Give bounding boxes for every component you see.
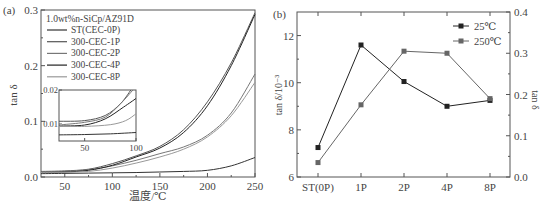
legend-item-label: 300-CEC-2P <box>71 48 120 58</box>
legend-item-label: ST(CEC-0P) <box>71 25 120 36</box>
data-marker <box>359 43 364 48</box>
data-marker <box>316 160 321 165</box>
panel-a-label: (a) <box>3 4 16 17</box>
legend-item-label: 300-CEC-4P <box>71 60 120 70</box>
x-tick-label: 4P <box>441 181 453 193</box>
data-marker <box>402 79 407 84</box>
legend-b: 25℃250℃ <box>453 21 502 47</box>
x-tick-label: 1P <box>355 181 367 193</box>
legend-item-label: 300-CEC-1P <box>71 37 120 47</box>
y-tick-label-right: 0.1 <box>514 130 528 142</box>
y-tick-label-right: 0.2 <box>514 89 528 101</box>
y-tick-label: 0.3 <box>24 4 38 16</box>
x-axis-a-label: 温度/℃ <box>129 189 166 202</box>
legend-item-label: 250℃ <box>474 36 502 47</box>
svg-text:0.02: 0.02 <box>43 85 58 95</box>
inset-a: 0.010.0250100 <box>43 85 143 153</box>
legend-item-label: 300-CEC-8P <box>71 72 120 82</box>
chart-b: (b) 6810120.00.10.20.30.4ST(0P)1P2P4P8P … <box>273 6 541 194</box>
data-marker <box>488 96 493 101</box>
y-tick-label: 0.1 <box>24 115 38 127</box>
data-marker <box>402 49 407 54</box>
y-tick-label-right: 0.0 <box>514 171 528 183</box>
y-tick-label-left: 8 <box>289 124 295 136</box>
y-tick-label-left: 10 <box>283 77 295 89</box>
legend-a-title: 1.0wt%n-SiCp/AZ91D <box>46 14 134 24</box>
x-tick-label: 100 <box>104 180 121 192</box>
y-tick-label-left: 12 <box>283 30 294 42</box>
chart-a: (a) 0.00.10.20.3 50100150200250 温度/℃ tan… <box>3 4 264 202</box>
svg-text:0.01: 0.01 <box>43 119 58 129</box>
figure: (a) 0.00.10.20.3 50100150200250 温度/℃ tan… <box>0 0 544 208</box>
x-tick-label: 250 <box>247 180 264 192</box>
series-line <box>318 51 490 162</box>
y-axis-a-label: tan δ <box>7 84 19 105</box>
x-tick-label: 50 <box>59 180 71 192</box>
panel-b-label: (b) <box>273 8 286 21</box>
legend-a: 1.0wt%n-SiCp/AZ91D ST(CEC-0P)300-CEC-1P3… <box>46 14 134 82</box>
x-tick-label: ST(0P) <box>302 181 334 194</box>
svg-text:50: 50 <box>80 143 90 153</box>
data-marker <box>359 102 364 107</box>
data-marker <box>445 51 450 56</box>
x-tick-label: 2P <box>398 181 410 193</box>
x-tick-label: 200 <box>199 180 216 192</box>
y-tick-label: 0.2 <box>24 60 38 72</box>
x-tick-label: 8P <box>484 181 496 193</box>
series-line <box>318 45 490 148</box>
y-tick-label-right: 0.3 <box>514 47 528 59</box>
y-axis-b-right-label: tan δ <box>530 90 541 110</box>
y-tick-label: 0.0 <box>24 171 38 183</box>
y-axis-b-left-label: tan δ/10⁻³ <box>273 75 284 115</box>
y-tick-label-right: 0.4 <box>514 6 528 18</box>
legend-item-label: 25℃ <box>474 21 497 32</box>
data-marker <box>445 104 450 109</box>
svg-text:100: 100 <box>129 143 143 153</box>
data-marker <box>316 145 321 150</box>
series-b <box>316 43 493 166</box>
y-axis-a: 0.00.10.20.3 <box>24 4 45 183</box>
y-tick-label-left: 6 <box>289 171 295 183</box>
